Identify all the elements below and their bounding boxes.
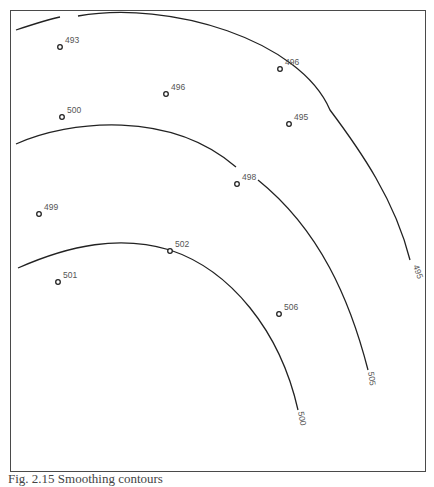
station-value: 498 xyxy=(242,172,256,182)
station-marker-icon xyxy=(56,280,61,285)
station-point: 496 xyxy=(164,82,186,96)
station-marker-icon xyxy=(287,122,292,127)
station-marker-icon xyxy=(235,182,240,187)
station-point: 500 xyxy=(60,105,82,119)
station-value: 502 xyxy=(175,239,189,249)
contour-line-495 xyxy=(16,12,410,260)
station-points: 493496496495500498499502501506 xyxy=(37,35,309,316)
station-point: 499 xyxy=(37,202,59,216)
contour-line-505 xyxy=(16,125,368,370)
station-value: 495 xyxy=(294,112,308,122)
station-value: 500 xyxy=(67,105,81,115)
figure-caption: Fig. 2.15 Smoothing contours xyxy=(8,471,163,487)
contour-label: 495 xyxy=(411,263,425,280)
contour-line-500 xyxy=(18,243,298,410)
station-value: 496 xyxy=(171,82,185,92)
station-value: 493 xyxy=(65,35,79,45)
station-value: 499 xyxy=(44,202,58,212)
station-value: 506 xyxy=(284,302,298,312)
station-marker-icon xyxy=(278,67,283,72)
station-marker-icon xyxy=(164,92,169,97)
contour-label: 500 xyxy=(296,411,308,427)
contour-label: 505 xyxy=(366,371,378,387)
station-marker-icon xyxy=(58,45,63,50)
station-point: 506 xyxy=(277,302,299,316)
contour-lines: 495505500 xyxy=(16,12,425,426)
station-value: 501 xyxy=(63,270,77,280)
station-point: 502 xyxy=(168,239,190,253)
station-marker-icon xyxy=(37,212,42,217)
station-point: 493 xyxy=(58,35,80,49)
station-point: 501 xyxy=(56,270,78,284)
station-marker-icon xyxy=(277,312,282,317)
station-point: 495 xyxy=(287,112,309,126)
station-point: 498 xyxy=(235,172,257,186)
station-point: 496 xyxy=(278,57,300,71)
station-marker-icon xyxy=(60,115,65,120)
station-marker-icon xyxy=(168,249,173,254)
station-value: 496 xyxy=(285,57,299,67)
